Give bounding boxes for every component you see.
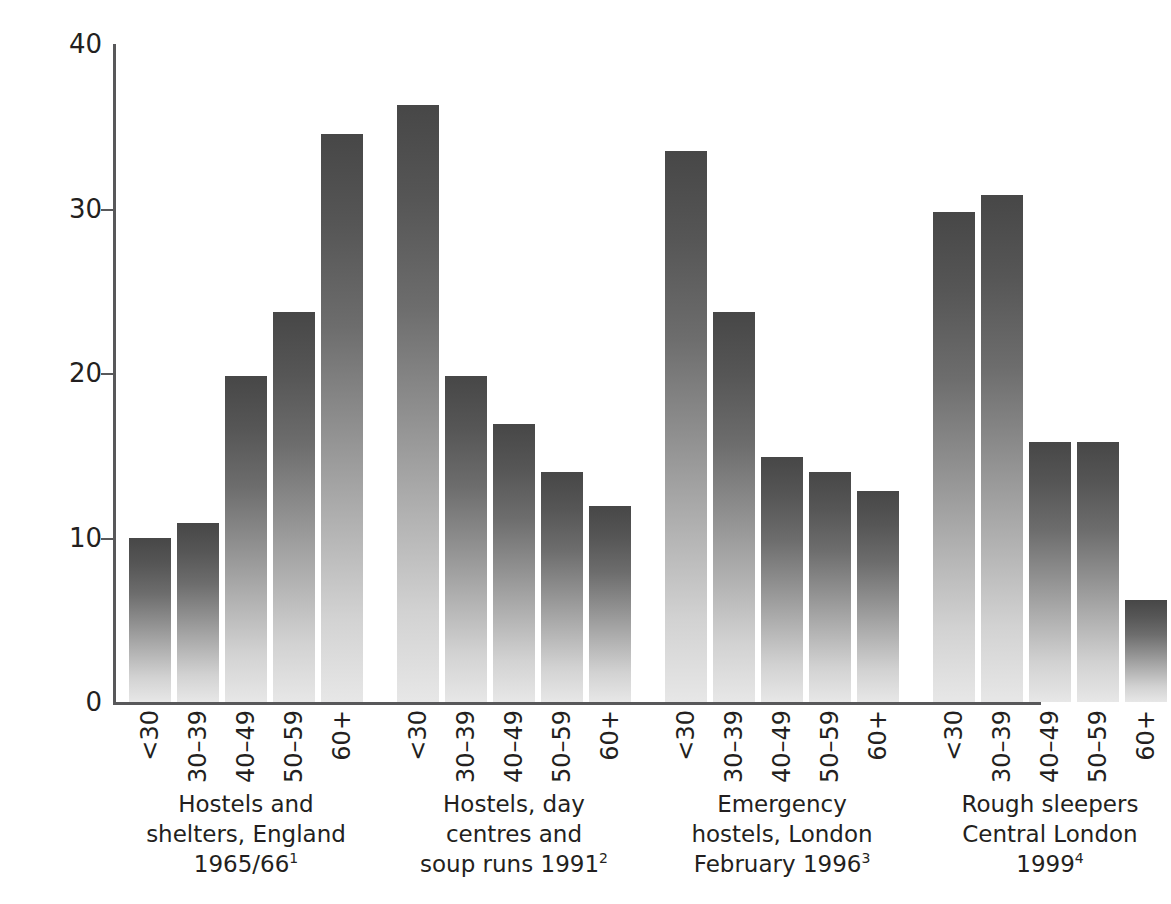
x-axis-category-label: 40–49 <box>493 710 535 788</box>
group-caption-line: 1965/661 <box>113 850 379 880</box>
y-axis-tick-mark <box>101 373 113 375</box>
x-axis-category-label: <30 <box>129 710 171 788</box>
y-axis-tick-label: 40 <box>48 31 102 57</box>
y-axis-tick-mark <box>101 538 113 540</box>
group-caption-line: 19994 <box>917 850 1171 880</box>
x-axis-category-label-text: <30 <box>406 710 430 761</box>
group-caption: Emergencyhostels, LondonFebruary 19963 <box>649 790 915 880</box>
group-caption-line: Emergency <box>649 790 915 820</box>
x-axis-category-label: 50–59 <box>273 710 315 788</box>
bar <box>541 472 583 702</box>
x-axis-category-label-text: <30 <box>674 710 698 761</box>
x-axis-category-label-text: 30–39 <box>186 710 210 783</box>
group-caption: Rough sleepersCentral London19994 <box>917 790 1171 880</box>
group-caption: Hostels, daycentres andsoup runs 19912 <box>381 790 647 880</box>
group-caption-line: centres and <box>381 820 647 850</box>
bar <box>933 212 975 702</box>
x-axis-category-label: 40–49 <box>1029 710 1071 788</box>
x-axis-category-label: 50–59 <box>541 710 583 788</box>
x-axis-category-label-text: 60+ <box>866 710 890 761</box>
x-axis-category-label-text: 50–59 <box>282 710 306 783</box>
x-axis-category-label: <30 <box>933 710 975 788</box>
x-axis-category-label: 60+ <box>321 710 363 788</box>
bar <box>1077 442 1119 702</box>
group-caption-line: Rough sleepers <box>917 790 1171 820</box>
bar <box>713 312 755 702</box>
x-axis-category-label-text: 60+ <box>330 710 354 761</box>
x-axis-category-label-text: 50–59 <box>1086 710 1110 783</box>
x-axis-category-label-text: 40–49 <box>502 710 526 783</box>
bar <box>857 491 899 702</box>
x-axis-category-label: 30–39 <box>981 710 1023 788</box>
bar <box>761 457 803 702</box>
bar <box>809 472 851 702</box>
x-axis-category-label-text: 40–49 <box>234 710 258 783</box>
x-axis-category-label-text: 50–59 <box>818 710 842 783</box>
y-axis-tick-label: 20 <box>48 360 102 386</box>
x-axis-category-label-text: 30–39 <box>722 710 746 783</box>
bar <box>1125 600 1167 702</box>
x-axis-category-label: 60+ <box>1125 710 1167 788</box>
bar <box>981 195 1023 702</box>
plot-area <box>113 44 1041 705</box>
x-axis-category-label: 30–39 <box>713 710 755 788</box>
x-axis-category-label: 30–39 <box>177 710 219 788</box>
group-caption-line: soup runs 19912 <box>381 850 647 880</box>
group-caption-line: Hostels and <box>113 790 379 820</box>
x-axis-category-label-text: 40–49 <box>1038 710 1062 783</box>
x-axis-category-label: 40–49 <box>225 710 267 788</box>
bar <box>273 312 315 702</box>
x-axis-category-label: <30 <box>665 710 707 788</box>
x-axis-category-label-text: <30 <box>138 710 162 761</box>
group-caption-line: hostels, London <box>649 820 915 850</box>
footnote-marker: 4 <box>1075 850 1084 866</box>
y-axis-tick-label: 0 <box>48 689 102 715</box>
bar <box>493 424 535 702</box>
group-caption-line: February 19963 <box>649 850 915 880</box>
x-axis-category-label: 40–49 <box>761 710 803 788</box>
bar <box>665 151 707 702</box>
x-axis-category-label: 60+ <box>857 710 899 788</box>
x-axis-category-label-text: <30 <box>942 710 966 761</box>
bars-container <box>113 44 1041 705</box>
bar <box>321 134 363 702</box>
x-axis-category-label: 50–59 <box>1077 710 1119 788</box>
group-caption-line: Central London <box>917 820 1171 850</box>
footnote-marker: 1 <box>289 850 298 866</box>
y-axis-tick-labels: 403020100 <box>40 0 102 904</box>
bar <box>129 538 171 703</box>
bar <box>177 523 219 702</box>
bar <box>397 105 439 702</box>
x-axis-category-label-text: 60+ <box>598 710 622 761</box>
x-axis-category-label-text: 30–39 <box>454 710 478 783</box>
group-caption: Hostels andshelters, England1965/661 <box>113 790 379 880</box>
bar <box>1029 442 1071 702</box>
y-axis-tick-label: 10 <box>48 525 102 551</box>
x-axis-category-label-text: 60+ <box>1134 710 1158 761</box>
group-captions: Hostels andshelters, England1965/661Host… <box>113 790 1041 890</box>
group-caption-line: Hostels, day <box>381 790 647 820</box>
footnote-marker: 2 <box>599 850 608 866</box>
y-axis-tick-mark <box>101 209 113 211</box>
footnote-marker: 3 <box>861 850 870 866</box>
x-axis-category-label: 50–59 <box>809 710 851 788</box>
x-axis-category-labels: <3030–3940–4950–5960+<3030–3940–4950–596… <box>113 710 1041 788</box>
x-axis-category-label-text: 50–59 <box>550 710 574 783</box>
bar <box>589 506 631 702</box>
x-axis-category-label-text: 30–39 <box>990 710 1014 783</box>
x-axis-category-label-text: 40–49 <box>770 710 794 783</box>
x-axis-category-label: 60+ <box>589 710 631 788</box>
bar <box>225 376 267 702</box>
group-caption-line: shelters, England <box>113 820 379 850</box>
x-axis-category-label: 30–39 <box>445 710 487 788</box>
y-axis-tick-label: 30 <box>48 196 102 222</box>
bar <box>445 376 487 702</box>
x-axis-category-label: <30 <box>397 710 439 788</box>
